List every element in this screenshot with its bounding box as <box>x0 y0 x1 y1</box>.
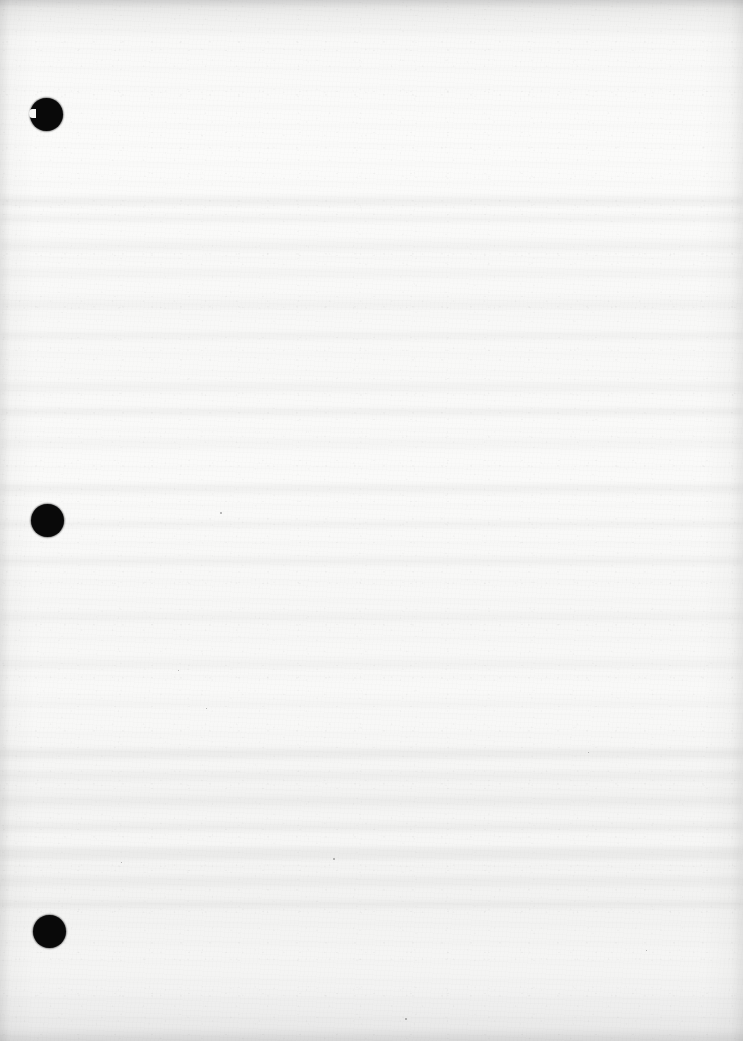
scanned-page: Blank scanned page with three punch hole… <box>0 0 743 1041</box>
scan-edge-vignette <box>0 0 743 1041</box>
